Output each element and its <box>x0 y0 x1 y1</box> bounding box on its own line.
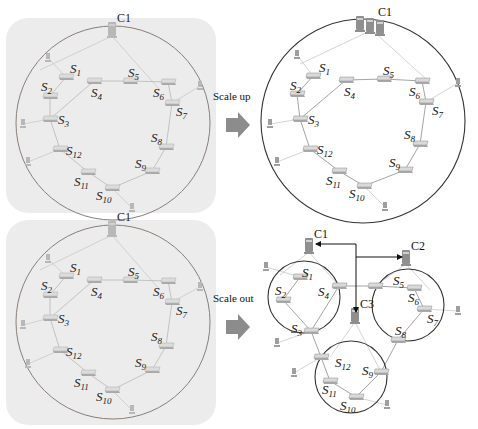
controller-label: C2 <box>411 239 425 253</box>
switch-label: S2 <box>290 78 302 95</box>
right-arrow-icon <box>226 314 250 340</box>
switch-icon <box>145 168 160 174</box>
switch-label: S8 <box>395 323 407 340</box>
controller-label: C1 <box>378 5 392 19</box>
switch-icon <box>398 167 413 173</box>
switch-icon <box>303 146 318 152</box>
panel-background <box>6 220 216 425</box>
switch-icon <box>349 394 364 400</box>
controller-server-icon <box>375 20 385 36</box>
controller-label: C1 <box>314 227 328 241</box>
switch-label: S8 <box>404 127 416 144</box>
control-link <box>372 30 425 78</box>
controller-label: C1 <box>117 210 131 224</box>
switch-label: S3 <box>291 321 303 338</box>
switch-icon <box>314 354 329 360</box>
switch-icon <box>332 283 347 289</box>
switch-link <box>405 144 420 170</box>
right-arrow-icon <box>226 112 250 138</box>
controller-server-icon <box>365 18 375 34</box>
controller-label: C1 <box>117 11 131 25</box>
controller-server-icon <box>355 16 365 32</box>
switch-label: S6 <box>409 84 421 101</box>
switch-label: S4 <box>344 84 356 101</box>
switch-label: S9 <box>389 155 401 172</box>
host-icon <box>291 368 297 377</box>
switch-icon <box>43 116 58 122</box>
transition-scale-up: Scale up <box>213 90 251 138</box>
control-link <box>300 30 372 64</box>
controller-server-icon <box>107 22 117 38</box>
panel-scaled-up: S1S2S3S4S5S6S7S8S9S10S11S12C1 <box>261 5 465 223</box>
switch-link <box>420 102 426 144</box>
host-link <box>364 186 385 207</box>
switch-label: S9 <box>362 363 374 380</box>
switch-link <box>381 340 398 372</box>
control-link <box>330 322 355 357</box>
switch-icon <box>368 283 383 289</box>
switch-icon <box>161 79 176 85</box>
transition-scale-out: Scale out <box>213 292 254 340</box>
switch-icon <box>304 328 319 334</box>
switch-label: S6 <box>408 290 420 307</box>
switch-label: S12 <box>335 355 351 372</box>
switch-icon <box>339 77 354 83</box>
switch-icon <box>413 141 428 147</box>
scaling-diagram: S1S2S3S4S5S6S7S8S9S10S11S12C1S1S2S3S4S5S… <box>0 0 478 429</box>
switch-label: S5 <box>383 63 395 80</box>
switch-link <box>300 80 346 119</box>
switch-label: S5 <box>393 273 405 290</box>
switch-icon <box>415 78 430 84</box>
switch-label: S3 <box>308 112 320 129</box>
switch-icon <box>87 277 102 283</box>
switch-label: S1 <box>302 265 313 282</box>
switch-label: S1 <box>319 60 330 77</box>
switch-icon <box>293 116 308 122</box>
switch-icon <box>357 183 372 189</box>
controller-server-icon <box>350 308 360 324</box>
switch-label: S12 <box>317 142 333 159</box>
switch-icon <box>332 168 347 174</box>
host-icon <box>382 202 388 211</box>
switch-label: S4 <box>318 284 330 301</box>
switch-label: S11 <box>326 173 341 190</box>
control-link <box>309 252 339 286</box>
switch-icon <box>145 367 160 373</box>
switch-icon <box>374 369 389 375</box>
controller-server-icon <box>107 221 117 237</box>
controller-label: C3 <box>360 297 374 311</box>
switch-icon <box>87 78 102 84</box>
switch-label: S11 <box>322 382 337 399</box>
switch-label: S7 <box>427 311 439 328</box>
controller-domain-ring <box>372 269 444 341</box>
switch-link <box>297 94 300 119</box>
switch-icon <box>43 315 58 321</box>
switch-icon <box>105 185 120 191</box>
switch-link <box>311 331 321 357</box>
switch-icon <box>81 370 96 376</box>
switch-label: S10 <box>340 398 356 415</box>
switch-label: S2 <box>275 283 287 300</box>
transition-label: Scale up <box>213 90 251 102</box>
switch-label: S7 <box>432 103 444 120</box>
host-icon <box>263 262 269 271</box>
switch-link <box>321 357 330 381</box>
transition-arrows: Scale upScale out <box>213 90 254 340</box>
controller-server-icon <box>304 238 314 254</box>
switch-icon <box>105 387 120 393</box>
switch-icon <box>81 169 96 175</box>
switch-icon <box>161 278 176 284</box>
transition-label: Scale out <box>213 292 254 304</box>
host-icon <box>294 50 300 59</box>
controller-server-icon <box>401 250 411 266</box>
panel-scaled-out: S1S2S3S4S5S6S7S8S9S10S11S12C1C2C3 <box>263 227 461 415</box>
